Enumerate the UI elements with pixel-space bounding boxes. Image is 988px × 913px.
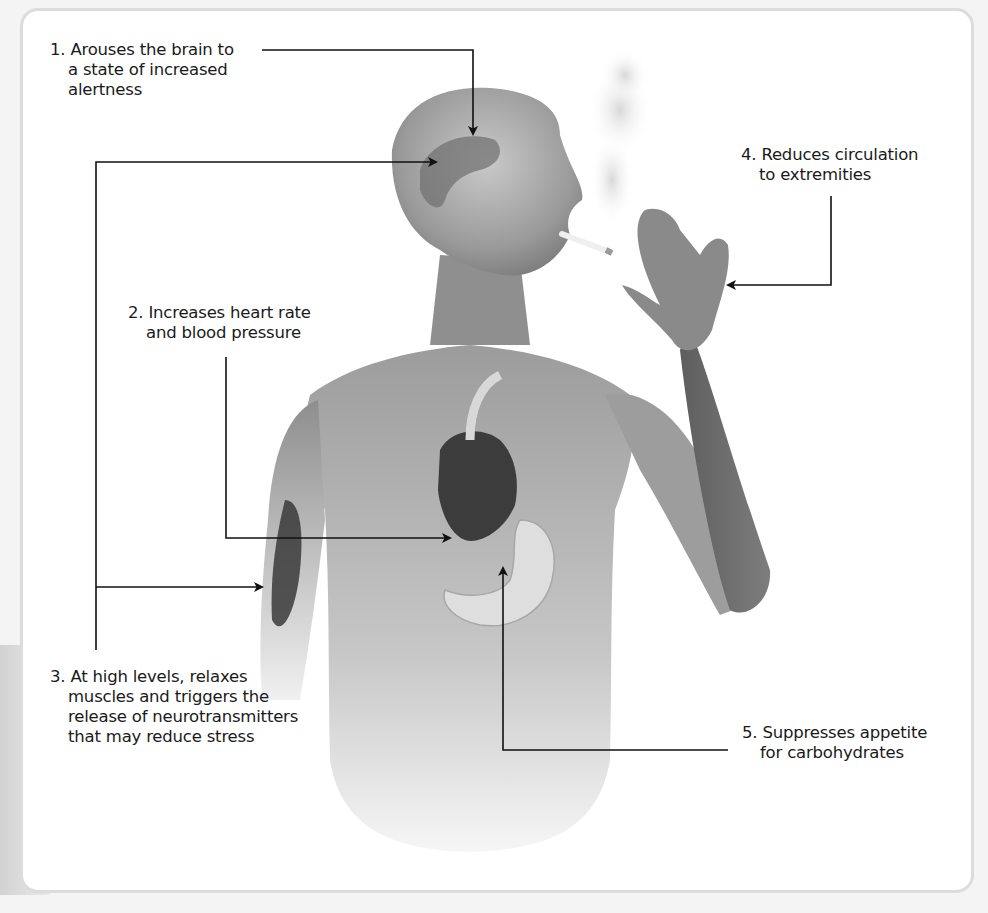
callout-4-line-1: Reduces circulation xyxy=(761,145,918,164)
callout-4-leader xyxy=(728,196,831,285)
callout-1-number: 1. xyxy=(50,40,65,60)
callout-4: 4. Reduces circulation to extremities xyxy=(741,145,918,185)
smoke xyxy=(588,49,652,225)
callout-3-line-4: that may reduce stress xyxy=(50,727,298,747)
cigarette xyxy=(562,234,610,252)
callout-5-line-2: for carbohydrates xyxy=(742,743,927,763)
callout-4-number: 4. xyxy=(741,145,756,165)
hand xyxy=(622,209,729,351)
callout-2-number: 2. xyxy=(128,303,143,323)
callout-3-number: 3. xyxy=(50,667,65,687)
callout-3: 3. At high levels, relaxes muscles and t… xyxy=(50,667,298,747)
callout-5-line-1: Suppresses appetite xyxy=(762,723,927,742)
callout-3-line-2: muscles and triggers the xyxy=(50,687,298,707)
callout-2-line-1: Increases heart rate xyxy=(148,303,310,322)
body-illustration xyxy=(0,0,988,913)
callout-3-line-3: release of neurotransmitters xyxy=(50,707,298,727)
callout-3-line-1: At high levels, relaxes xyxy=(70,667,247,686)
callout-1-line-3: alertness xyxy=(50,80,234,100)
callout-2: 2. Increases heart rate and blood pressu… xyxy=(128,303,311,343)
callout-4-line-2: to extremities xyxy=(741,165,918,185)
callout-1-line-1: Arouses the brain to xyxy=(70,40,233,59)
callout-1: 1. Arouses the brain to a state of incre… xyxy=(50,40,234,100)
callout-5: 5. Suppresses appetite for carbohydrates xyxy=(742,723,927,763)
cigarette-ash xyxy=(606,250,612,253)
callout-1-line-2: a state of increased xyxy=(50,60,234,80)
callout-5-number: 5. xyxy=(742,723,757,743)
callout-2-line-2: and blood pressure xyxy=(128,323,311,343)
